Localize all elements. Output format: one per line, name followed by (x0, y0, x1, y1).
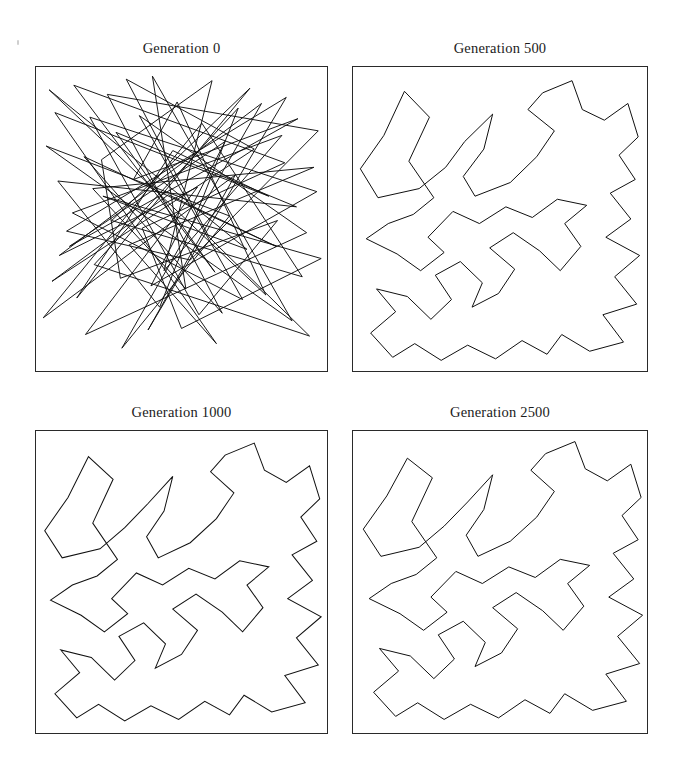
tour-plot-generation-500 (353, 67, 647, 371)
figure-canvas: Generation 0 Generation 500 Generation 1… (0, 0, 683, 769)
tour-polyline-generation-1000 (45, 443, 321, 721)
plot-frame-generation-500 (352, 66, 648, 372)
plot-frame-generation-0 (35, 66, 328, 372)
plot-frame-generation-1000 (35, 430, 328, 734)
tour-polyline-generation-2500 (363, 442, 642, 720)
panel-generation-2500: Generation 2500 (352, 400, 648, 734)
panel-title-generation-500: Generation 500 (352, 40, 648, 57)
panel-generation-1000: Generation 1000 (35, 400, 328, 734)
tour-polyline-generation-0 (43, 76, 321, 348)
tour-plot-generation-0 (36, 67, 327, 371)
scan-speck (17, 40, 19, 45)
tour-plot-generation-1000 (36, 431, 327, 733)
panel-title-generation-2500: Generation 2500 (352, 404, 648, 421)
panel-generation-0: Generation 0 (35, 36, 328, 372)
panel-generation-500: Generation 500 (352, 36, 648, 372)
panel-title-generation-0: Generation 0 (35, 40, 328, 57)
panel-title-generation-1000: Generation 1000 (35, 404, 328, 421)
tour-polyline-generation-500 (360, 81, 639, 361)
tour-plot-generation-2500 (353, 431, 647, 733)
plot-frame-generation-2500 (352, 430, 648, 734)
